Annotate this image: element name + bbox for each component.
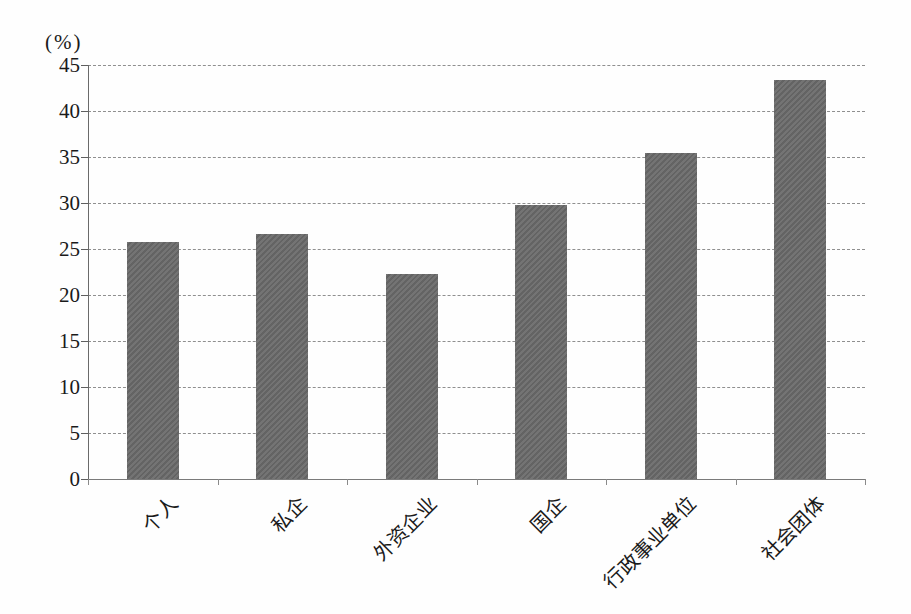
gridline-5 (88, 433, 865, 434)
gridline-30 (88, 203, 865, 204)
y-axis-tick (81, 295, 88, 296)
y-tick-label: 15 (28, 330, 80, 352)
x-category-label: 社会团体 (754, 489, 831, 566)
y-axis-tick (81, 341, 88, 342)
y-axis-tick (81, 433, 88, 434)
y-tick-label: 10 (28, 376, 80, 398)
y-tick-label: 35 (28, 146, 80, 168)
bar-外资企业 (386, 274, 438, 479)
gridline-35 (88, 157, 865, 158)
bar-个人 (127, 242, 179, 479)
bar-私企 (256, 234, 308, 479)
x-axis-tick (88, 479, 89, 485)
x-axis-tick (477, 479, 478, 485)
y-axis-tick (81, 157, 88, 158)
bar-chart: (%) 051015202530354045个人私企外资企业国企行政事业单位社会… (0, 0, 911, 614)
bar-社会团体 (774, 80, 826, 479)
y-axis-tick (81, 203, 88, 204)
gridline-40 (88, 111, 865, 112)
bar-行政事业单位 (645, 153, 697, 479)
x-axis-tick (736, 479, 737, 485)
gridline-25 (88, 249, 865, 250)
x-axis-tick (865, 479, 866, 485)
gridline-20 (88, 295, 865, 296)
y-tick-label: 0 (28, 468, 80, 490)
y-tick-label: 30 (28, 192, 80, 214)
y-axis-tick (81, 65, 88, 66)
x-category-label: 国企 (523, 489, 572, 538)
y-axis-line (88, 65, 89, 479)
y-tick-label: 45 (28, 54, 80, 76)
x-category-label: 个人 (134, 489, 183, 538)
x-axis-tick (347, 479, 348, 485)
y-tick-label: 25 (28, 238, 80, 260)
y-tick-label: 5 (28, 422, 80, 444)
gridline-45 (88, 65, 865, 66)
x-category-label: 私企 (264, 489, 313, 538)
y-axis-tick (81, 479, 88, 480)
x-axis-tick (218, 479, 219, 485)
y-axis-tick (81, 111, 88, 112)
y-axis-tick (81, 387, 88, 388)
y-tick-label: 40 (28, 100, 80, 122)
x-category-label: 行政事业单位 (596, 489, 701, 594)
y-axis-unit-label: (%) (45, 30, 82, 55)
y-tick-label: 20 (28, 284, 80, 306)
gridline-10 (88, 387, 865, 388)
gridline-15 (88, 341, 865, 342)
y-axis-tick (81, 249, 88, 250)
x-axis-tick (606, 479, 607, 485)
bar-国企 (515, 205, 567, 479)
x-category-label: 外资企业 (365, 489, 442, 566)
